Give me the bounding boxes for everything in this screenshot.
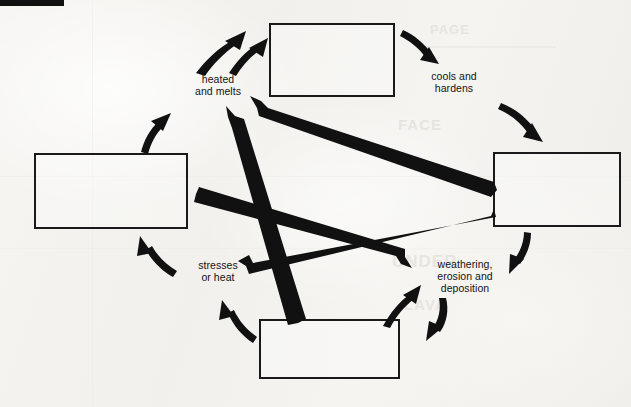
arrow-layer <box>0 0 631 407</box>
arrow-right-box-to-heated-and-melts <box>250 96 497 197</box>
diagram-canvas: PAGE FACE UNDER LAVA heated and melts co… <box>0 0 631 407</box>
arrowhead-curve-stresses-to-left-box <box>137 236 152 256</box>
arrow-curve-stresses-to-left-box <box>146 246 177 277</box>
